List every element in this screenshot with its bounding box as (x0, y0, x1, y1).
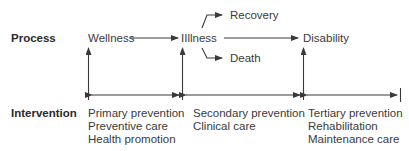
illness-to-death-arrow (202, 48, 222, 58)
primary-intervention: Primary prevention Preventive care Healt… (88, 107, 185, 146)
recovery-node: Recovery (230, 9, 279, 22)
intervention-line: Tertiary prevention (308, 107, 403, 120)
wellness-node: Wellness (88, 32, 134, 45)
intervention-row-label: Intervention (11, 107, 77, 120)
intervention-line: Maintenance care (308, 133, 403, 146)
secondary-intervention: Secondary prevention Clinical care (193, 107, 305, 133)
intervention-line: Secondary prevention (193, 107, 305, 120)
intervention-line: Preventive care (88, 120, 185, 133)
death-node: Death (230, 52, 261, 65)
process-row-label: Process (11, 32, 56, 45)
intervention-line: Rehabilitation (308, 120, 403, 133)
tertiary-intervention: Tertiary prevention Rehabilitation Maint… (308, 107, 403, 146)
illness-node: IIllness (181, 32, 217, 45)
illness-to-recovery-arrow (202, 15, 222, 28)
intervention-line: Clinical care (193, 120, 305, 133)
disability-node: Disability (303, 32, 349, 45)
intervention-line: Primary prevention (88, 107, 185, 120)
intervention-line: Health promotion (88, 133, 185, 146)
